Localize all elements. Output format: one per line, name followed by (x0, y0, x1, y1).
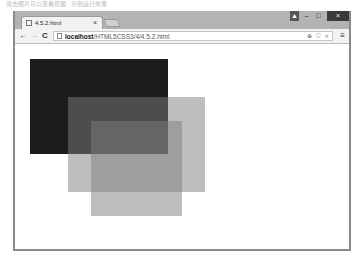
title-bar: 4.5.2.html × ▲ – □ × (15, 11, 349, 29)
browser-window: 4.5.2.html × ▲ – □ × ← → C localhost/HTM… (13, 11, 351, 251)
maximize-button[interactable]: □ (314, 11, 323, 21)
back-button[interactable]: ← (19, 30, 27, 42)
shield-icon[interactable]: ⛉ (316, 32, 321, 41)
user-icon[interactable]: ▲ (290, 11, 299, 21)
new-tab-button[interactable] (104, 19, 121, 27)
menu-icon[interactable]: ≡ (340, 31, 345, 41)
tab-title: 4.5.2.html (35, 17, 61, 29)
page-icon (26, 20, 32, 26)
page-content (15, 44, 349, 249)
close-window-button[interactable]: × (327, 11, 349, 21)
forward-button[interactable]: → (30, 30, 38, 42)
browser-toolbar: ← → C localhost/HTML5CSS3/4/4.5.2.html ⊕… (15, 29, 349, 44)
url-path: /HTML5CSS3/4/4.5.2.html (94, 33, 170, 40)
page-icon (57, 33, 62, 39)
url-text: localhost/HTML5CSS3/4/4.5.2.html (65, 32, 169, 41)
star-icon[interactable]: ★ (324, 32, 329, 41)
reload-button[interactable]: C (42, 30, 48, 42)
minimize-button[interactable]: – (302, 11, 311, 21)
zoom-icon[interactable]: ⊕ (307, 32, 312, 41)
page-caption: 双击图片可以查看原图 · 示例运行效果 (0, 0, 357, 10)
address-bar[interactable]: localhost/HTML5CSS3/4/4.5.2.html ⊕ ⛉ ★ (53, 31, 333, 41)
url-host: localhost (65, 33, 94, 40)
gray-rectangle-2 (91, 121, 182, 216)
tab-close-icon[interactable]: × (93, 17, 97, 29)
tab-active[interactable]: 4.5.2.html × (21, 16, 103, 29)
